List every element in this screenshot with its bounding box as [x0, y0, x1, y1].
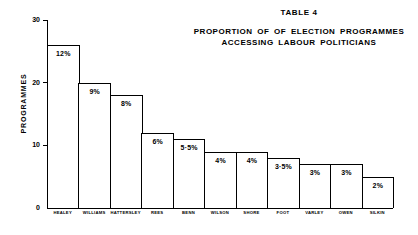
x-label-shore: SHORE	[236, 210, 267, 216]
bar-varley: 3%	[299, 164, 332, 208]
bar-wilson: 4%	[204, 152, 237, 208]
x-label-varley: VARLEY	[299, 210, 330, 216]
y-axis-title: PROGRAMMES	[20, 59, 27, 149]
y-tick-label-0: 0	[14, 204, 40, 211]
x-axis-line	[47, 208, 393, 209]
bar-value-label: 12%	[48, 50, 79, 57]
x-label-hattersley: HATTERSLEY	[110, 210, 141, 216]
y-tick-label-20: 20	[14, 79, 40, 86]
x-label-healey: HEALEY	[47, 210, 78, 216]
x-label-foot: FOOT	[267, 210, 298, 216]
bar-rees: 6%	[141, 133, 174, 208]
x-label-silkin: SILKIN	[362, 210, 393, 216]
bar-value-label: 3%	[331, 169, 362, 176]
bar-value-label: 6%	[142, 138, 173, 145]
bar-series: 12%9%8%6%5·5%4%4%3·5%3%3%2%	[47, 20, 393, 208]
bar-value-label: 4%	[237, 157, 268, 164]
bar-silkin: 2%	[362, 177, 395, 208]
x-label-williams: WILLIAMS	[78, 210, 109, 216]
bar-value-label: 5·5%	[174, 144, 205, 151]
chart-page: TABLE 4 PROPORTION OF OF ELECTION PROGRA…	[0, 0, 418, 235]
x-label-benn: BENN	[173, 210, 204, 216]
bar-value-label: 2%	[363, 182, 394, 189]
bar-value-label: 4%	[205, 157, 236, 164]
bar-value-label: 3%	[300, 169, 331, 176]
bar-healey: 12%	[47, 45, 80, 208]
bar-value-label: 3·5%	[268, 163, 299, 170]
bar-value-label: 8%	[111, 100, 142, 107]
table-number: TABLE 4	[185, 8, 413, 17]
bar-foot: 3·5%	[267, 158, 300, 208]
bar-hattersley: 8%	[110, 95, 143, 208]
y-tick-label-10: 10	[14, 141, 40, 148]
bar-shore: 4%	[236, 152, 269, 208]
x-label-rees: REES	[141, 210, 172, 216]
y-tick-label-30: 30	[14, 16, 40, 23]
bar-value-label: 9%	[79, 88, 110, 95]
bar-williams: 9%	[78, 83, 111, 208]
x-label-owen: OWEN	[330, 210, 361, 216]
x-label-wilson: WILSON	[204, 210, 235, 216]
bar-owen: 3%	[330, 164, 363, 208]
bar-benn: 5·5%	[173, 139, 206, 208]
